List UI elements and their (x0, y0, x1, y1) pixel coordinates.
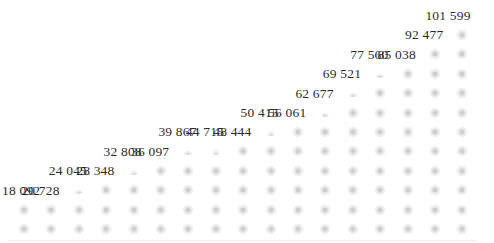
dot-marker (237, 165, 249, 177)
dot-marker (374, 223, 386, 235)
dot-marker (374, 165, 386, 177)
bar-column (207, 0, 227, 243)
dot-marker (347, 126, 359, 138)
value-label: 69 521 (323, 66, 361, 82)
dot-marker (292, 223, 304, 235)
bar-column (262, 0, 282, 243)
dot-marker (456, 165, 468, 177)
dot-marker (292, 184, 304, 196)
dot-marker (456, 87, 468, 99)
dot-marker (292, 126, 304, 138)
bar-column (289, 0, 309, 243)
dot-marker (237, 223, 249, 235)
dot-marker (374, 184, 386, 196)
dot-marker (429, 126, 441, 138)
dot-marker (45, 204, 57, 216)
dot-marker (182, 165, 194, 177)
dot-marker (319, 204, 331, 216)
dot-marker (319, 126, 331, 138)
value-label: 62 677 (295, 86, 333, 102)
dot-marker (237, 184, 249, 196)
dot-marker (429, 48, 441, 60)
dot-marker (182, 223, 194, 235)
dot-marker (347, 204, 359, 216)
dot-marker (402, 223, 414, 235)
dot-marker (319, 223, 331, 235)
dot-marker (456, 223, 468, 235)
bar-column (70, 0, 90, 243)
bar-column (234, 0, 254, 243)
dot-marker (429, 68, 441, 80)
dot-marker (456, 184, 468, 196)
dot-marker (374, 87, 386, 99)
dot-marker (265, 204, 277, 216)
dot-marker (292, 145, 304, 157)
dot-marker (18, 223, 30, 235)
partial-dot-marker (374, 70, 386, 78)
partial-dot-marker (128, 167, 140, 175)
dot-marker (265, 145, 277, 157)
dot-marker (347, 165, 359, 177)
dot-marker (374, 107, 386, 119)
dot-marker (402, 107, 414, 119)
partial-dot-marker (182, 147, 194, 155)
bar-column (125, 0, 145, 243)
bar-column (15, 0, 35, 243)
dot-marker (100, 184, 112, 196)
dot-marker (374, 145, 386, 157)
dot-marker (155, 223, 167, 235)
partial-dot-marker (319, 109, 331, 117)
dot-marker (347, 145, 359, 157)
bar-column (42, 0, 62, 243)
bar-column (97, 0, 117, 243)
dot-marker (128, 184, 140, 196)
dot-marker (210, 204, 222, 216)
partial-dot-marker (265, 128, 277, 136)
dot-marker (456, 48, 468, 60)
dot-marker (319, 145, 331, 157)
dot-marker (73, 223, 85, 235)
dot-marker (73, 204, 85, 216)
dot-marker (210, 184, 222, 196)
value-label: 101 599 (425, 8, 470, 24)
value-label: 56 061 (268, 105, 306, 121)
dot-marker (429, 145, 441, 157)
dot-marker (456, 126, 468, 138)
dot-marker (456, 145, 468, 157)
bar-column (344, 0, 364, 243)
dot-marker (265, 165, 277, 177)
dot-marker (456, 29, 468, 41)
partial-dot-marker (347, 89, 359, 97)
dot-marker (128, 223, 140, 235)
dot-marker (347, 107, 359, 119)
dot-marker (319, 184, 331, 196)
dot-marker (402, 126, 414, 138)
dot-marker (456, 107, 468, 119)
partial-dot-marker (73, 186, 85, 194)
dot-marker (292, 204, 304, 216)
dot-marker (210, 165, 222, 177)
dot-marker (429, 223, 441, 235)
dot-marker (402, 87, 414, 99)
dot-marker (456, 68, 468, 80)
dot-marker (100, 204, 112, 216)
value-label: 36 097 (131, 144, 169, 160)
dot-marker (128, 204, 140, 216)
dot-marker (237, 145, 249, 157)
dot-marker (155, 204, 167, 216)
value-label: 85 038 (378, 47, 416, 63)
dot-marker (429, 87, 441, 99)
dot-stack-chart: 18 09220 72824 04528 34832 80836 09739 8… (0, 0, 494, 243)
dot-marker (347, 223, 359, 235)
dot-marker (402, 184, 414, 196)
dot-marker (265, 223, 277, 235)
dot-marker (429, 204, 441, 216)
dot-marker (402, 204, 414, 216)
bar-column (453, 0, 473, 243)
dot-marker (374, 126, 386, 138)
dot-marker (210, 223, 222, 235)
bar-column (179, 0, 199, 243)
dot-marker (374, 204, 386, 216)
dot-marker (45, 223, 57, 235)
value-label: 28 348 (76, 163, 114, 179)
